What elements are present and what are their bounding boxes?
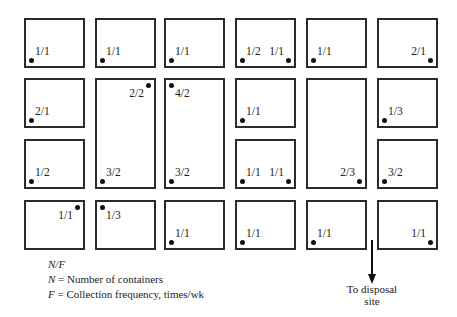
collection-point-dot [240,118,245,123]
collection-point-label: 1/2 [35,167,50,178]
disposal-site-label: To disposal site [340,283,404,307]
collection-point-label: 1/1 [175,228,190,239]
collection-point-label: 1/3 [106,210,121,221]
disposal-arrow-shaft [371,240,373,276]
city-block [306,78,367,189]
legend-n-line: N = Number of containers [48,272,204,287]
collection-point-label: 1/1 [35,46,50,57]
collection-point-dot [428,240,433,245]
legend-f-line: F = Collection frequency, times/wk [48,287,204,302]
collection-point-label: 3/2 [106,167,121,178]
n-definition: = Number of containers [58,273,163,285]
collection-point-label: 1/1 [246,167,261,178]
city-block [164,78,225,189]
city-block [95,78,156,189]
collection-point-dot [29,58,34,63]
collection-point-dot [100,58,105,63]
collection-point-label: 1/1 [269,46,284,57]
legend: N/F N = Number of containers F = Collect… [48,257,204,302]
collection-point-dot [311,58,316,63]
collection-point-dot [169,83,174,88]
legend-notation: N/F [48,257,204,272]
collection-point-dot [240,179,245,184]
collection-point-dot [100,205,105,210]
collection-point-label: 3/2 [175,167,190,178]
collection-point-dot [357,179,362,184]
collection-point-label: 2/1 [411,46,426,57]
collection-point-label: 1/1 [269,167,284,178]
collection-point-dot [75,205,80,210]
collection-point-label: 1/1 [175,46,190,57]
collection-point-label: 1/2 [246,46,261,57]
collection-point-dot [100,179,105,184]
collection-point-dot [169,240,174,245]
collection-point-label: 2/2 [129,88,144,99]
collection-point-dot [240,58,245,63]
collection-point-dot [286,179,291,184]
collection-point-label: 1/1 [317,228,332,239]
collection-point-label: 2/3 [340,167,355,178]
f-definition: = Collection frequency, times/wk [57,288,204,300]
collection-point-dot [382,179,387,184]
collection-point-label: 3/2 [388,167,403,178]
collection-point-dot [382,118,387,123]
collection-point-label: 1/1 [317,46,332,57]
collection-point-dot [169,179,174,184]
collection-point-dot [146,83,151,88]
collection-point-dot [29,179,34,184]
collection-point-dot [428,58,433,63]
notation-text: N/F [48,258,65,270]
collection-point-label: 2/1 [35,106,50,117]
collection-point-dot [286,58,291,63]
collection-point-dot [29,118,34,123]
collection-point-label: 1/1 [58,210,73,221]
collection-point-label: 1/1 [411,228,426,239]
collection-point-label: 1/1 [246,228,261,239]
disposal-line-2: site [340,295,404,307]
collection-point-dot [311,240,316,245]
collection-point-label: 1/3 [388,106,403,117]
collection-point-label: 1/1 [106,46,121,57]
n-symbol: N [48,273,55,285]
collection-point-dot [240,240,245,245]
collection-point-label: 1/1 [246,106,261,117]
collection-point-dot [169,58,174,63]
collection-point-label: 4/2 [175,88,190,99]
disposal-line-1: To disposal [340,283,404,295]
f-symbol: F [48,288,55,300]
